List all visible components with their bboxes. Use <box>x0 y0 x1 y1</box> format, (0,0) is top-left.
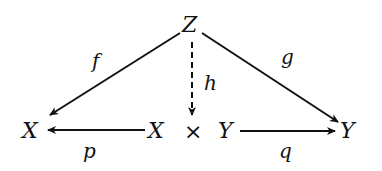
label-h: h <box>204 71 217 95</box>
label-f: f <box>90 49 103 73</box>
node-product-x: X <box>146 118 165 143</box>
node-product-y: Y <box>218 118 235 143</box>
node-y-right: Y <box>340 118 357 143</box>
label-p: p <box>83 139 96 163</box>
product-diagram: Z X X × Y Y f g h p q <box>0 0 382 171</box>
product-times-symbol: × <box>184 119 202 144</box>
node-z: Z <box>181 12 198 37</box>
arrow-f <box>50 33 180 115</box>
label-g: g <box>281 45 294 69</box>
arrow-g <box>202 33 338 122</box>
node-x-left: X <box>20 118 39 143</box>
label-q: q <box>279 139 292 163</box>
